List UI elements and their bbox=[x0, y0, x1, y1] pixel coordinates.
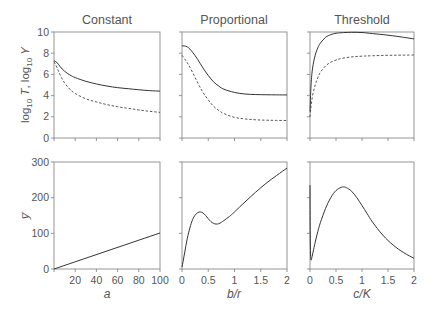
panel-bottom-proportional: 00.511.52 bbox=[179, 162, 290, 286]
plot-frame bbox=[54, 162, 160, 269]
panel-bottom-threshold: 00.511.52 bbox=[307, 162, 417, 286]
plot-frame bbox=[310, 162, 414, 269]
y-tick-label: 6 bbox=[43, 68, 49, 80]
series-log10-y-line bbox=[54, 62, 160, 113]
x-tick-label: 2 bbox=[284, 274, 290, 286]
svg-text:y̅: y̅ bbox=[19, 211, 31, 220]
series-log10-t-line bbox=[182, 46, 287, 95]
series-log10-t-line bbox=[310, 32, 414, 111]
panels: 024681001002003002040608010000.511.5200.… bbox=[31, 26, 417, 287]
y-tick-label: 4 bbox=[43, 89, 49, 101]
figure: Constant Proportional Threshold log10 T,… bbox=[0, 0, 435, 313]
plot-frame bbox=[182, 162, 287, 269]
x-tick-label: 1 bbox=[232, 274, 238, 286]
panel-top-proportional bbox=[179, 32, 287, 141]
y-tick-label: 0 bbox=[43, 263, 49, 275]
series-log10-y-line bbox=[182, 55, 287, 120]
y-tick-label: 300 bbox=[31, 156, 49, 168]
y-tick-label: 8 bbox=[43, 47, 49, 59]
x-tick-label: 2 bbox=[411, 274, 417, 286]
series-log10-y-line bbox=[310, 55, 414, 117]
x-axis-label-a: a bbox=[104, 287, 111, 301]
title-constant: Constant bbox=[82, 13, 133, 27]
top-y-axis-label: log10 T, log10 Y bbox=[19, 46, 34, 123]
x-tick-label: 0.5 bbox=[201, 274, 216, 286]
x-tick-label: 60 bbox=[112, 274, 124, 286]
series-mean-y-line bbox=[182, 168, 287, 267]
series-mean-y-line bbox=[310, 185, 414, 260]
y-tick-label: 0 bbox=[43, 132, 49, 144]
x-tick-label: 1.5 bbox=[381, 274, 396, 286]
x-tick-label: 100 bbox=[151, 274, 169, 286]
panel-top-constant: 0246810 bbox=[37, 26, 160, 144]
plot-frame bbox=[182, 32, 287, 138]
x-tick-label: 20 bbox=[69, 274, 81, 286]
x-tick-label: 1.5 bbox=[253, 274, 268, 286]
y-tick-label: 10 bbox=[37, 26, 49, 38]
y-tick-label: 200 bbox=[31, 191, 49, 203]
x-tick-label: 0 bbox=[307, 274, 313, 286]
y-tick-label: 100 bbox=[31, 227, 49, 239]
x-tick-label: 80 bbox=[133, 274, 145, 286]
series-log10-t-line bbox=[54, 61, 160, 92]
panel-top-threshold bbox=[307, 32, 414, 141]
x-tick-label: 40 bbox=[91, 274, 103, 286]
x-axis-label-c-over-k: c/K bbox=[353, 287, 371, 301]
title-threshold: Threshold bbox=[334, 13, 390, 27]
panel-bottom-constant: 010020030020406080100 bbox=[31, 156, 168, 287]
x-tick-label: 1 bbox=[359, 274, 365, 286]
chart-canvas: Constant Proportional Threshold log10 T,… bbox=[0, 0, 435, 313]
title-proportional: Proportional bbox=[200, 13, 267, 27]
x-tick-label: 0 bbox=[179, 274, 185, 286]
plot-frame bbox=[54, 32, 160, 138]
plot-frame bbox=[310, 32, 414, 138]
series-mean-y-line bbox=[54, 233, 160, 269]
bottom-y-axis-label: y̅ bbox=[19, 211, 31, 220]
x-axis-label-b-over-r: b/r bbox=[227, 287, 242, 301]
x-tick-label: 0.5 bbox=[329, 274, 344, 286]
svg-text:log10 T, log10 Y: log10 T, log10 Y bbox=[19, 46, 34, 123]
y-tick-label: 2 bbox=[43, 110, 49, 122]
